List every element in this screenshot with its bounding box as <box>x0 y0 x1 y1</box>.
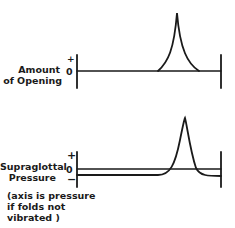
bottom-tick-minus: − <box>67 174 76 185</box>
bottom-tick-plus: + <box>67 150 76 161</box>
opening-curve <box>158 13 199 71</box>
top-label-line2: of Opening <box>0 75 62 86</box>
top-tick-plus: + <box>67 54 75 65</box>
note-line1: (axis is pressure <box>7 190 95 201</box>
bottom-label-line1: Supraglottal <box>0 161 62 172</box>
note-line2: if folds not <box>7 201 65 212</box>
top-tick-zero: 0 <box>66 66 73 77</box>
bottom-label-line2: Pressure <box>0 172 56 183</box>
pressure-curve <box>77 118 221 176</box>
note-line3: vibrated ) <box>7 212 60 223</box>
top-label-line1: Amount <box>8 64 60 75</box>
